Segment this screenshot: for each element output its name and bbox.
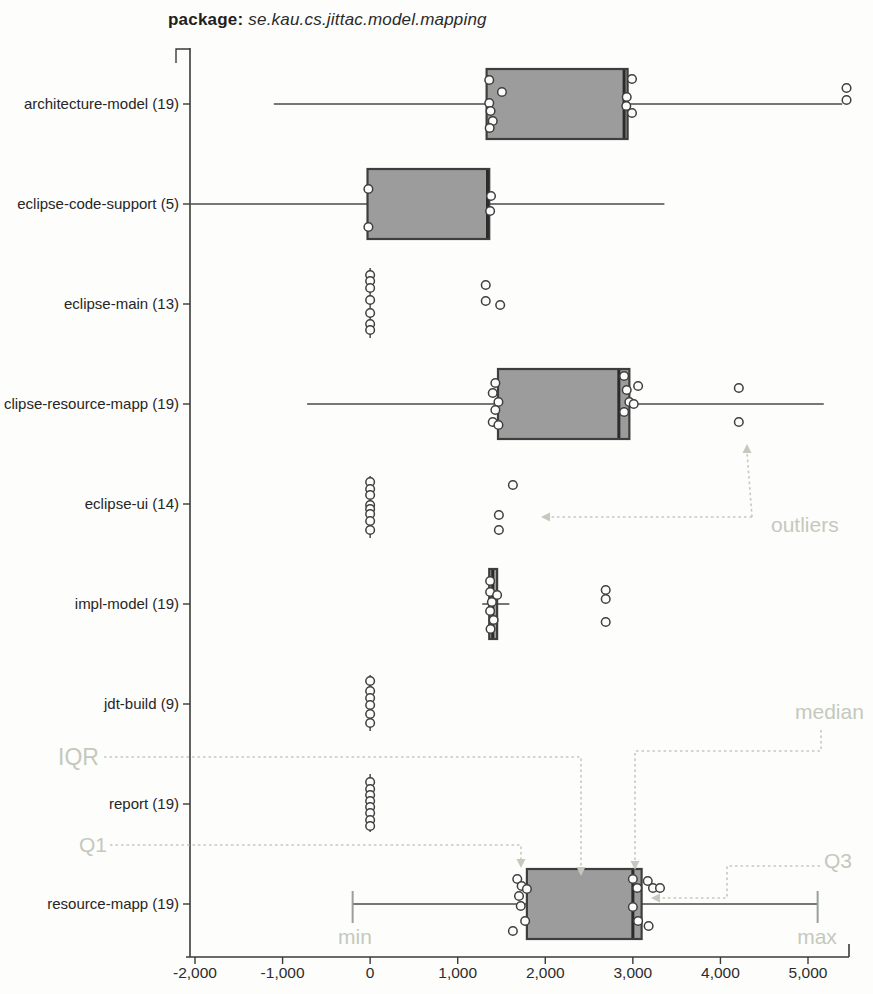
annotation-arrowhead <box>517 859 526 868</box>
annotation-label-min: min <box>338 925 372 948</box>
data-point <box>366 296 375 305</box>
data-point <box>486 207 495 216</box>
y-axis-top-cap <box>176 49 190 63</box>
outlier-point <box>842 84 851 93</box>
data-point <box>364 223 373 232</box>
x-axis-tick-label: 5,000 <box>789 964 828 981</box>
category-label: resource-mapp (19) <box>47 895 179 912</box>
data-point <box>523 885 532 894</box>
annotation-label-q3: Q3 <box>824 849 852 872</box>
data-point <box>620 408 629 417</box>
data-point <box>366 677 375 686</box>
annotation-arrow-median-down <box>635 730 821 862</box>
annotation-arrow-q3-left <box>659 866 820 898</box>
data-point <box>488 598 497 607</box>
outlier-point <box>634 382 643 391</box>
data-point <box>485 76 494 85</box>
data-point <box>489 616 498 625</box>
data-point <box>629 400 638 409</box>
data-point <box>366 710 375 719</box>
chart-title-package-name: se.kau.cs.jittac.model.mapping <box>248 10 486 29</box>
outlier-point <box>495 511 504 520</box>
boxplot-chart: -2,000-1,00001,0002,0003,0004,0005,000ar… <box>0 0 873 994</box>
category-label: report (19) <box>109 795 179 812</box>
outlier-point <box>496 301 505 310</box>
category-label: eclipse-main (13) <box>64 295 179 312</box>
data-point <box>366 309 375 318</box>
data-point <box>366 719 375 728</box>
data-point <box>634 917 643 926</box>
data-point <box>644 922 653 931</box>
outlier-point <box>842 96 851 105</box>
data-point <box>366 526 375 535</box>
annotation-label-max: max <box>797 925 837 948</box>
data-point <box>628 75 637 84</box>
data-point <box>622 386 631 395</box>
outlier-point <box>601 618 610 627</box>
outlier-point <box>735 384 744 393</box>
boxplot-page: package:se.kau.cs.jittac.model.mapping -… <box>0 0 873 994</box>
annotation-label-outliers: outliers <box>771 513 839 536</box>
x-axis-tick-label: -2,000 <box>173 964 217 981</box>
data-point <box>485 124 494 133</box>
chart-title-prefix: package: <box>168 10 243 29</box>
x-axis-tick-label: 3,000 <box>613 964 652 981</box>
data-point <box>366 326 375 335</box>
annotation-arrow-iqr-down <box>104 757 581 868</box>
category-label: architecture-model (19) <box>24 95 179 112</box>
data-point <box>486 577 495 586</box>
outlier-point <box>509 927 518 936</box>
data-point <box>366 517 375 526</box>
x-axis-tick-label: 1,000 <box>438 964 477 981</box>
x-axis-tick-label: 2,000 <box>526 964 565 981</box>
data-point <box>366 491 375 500</box>
data-point <box>628 109 637 118</box>
annotation-arrowhead <box>651 894 660 903</box>
data-point <box>487 192 496 201</box>
chart-title: package:se.kau.cs.jittac.model.mapping <box>168 10 487 30</box>
data-point <box>633 884 642 893</box>
data-point <box>491 379 500 388</box>
annotation-arrowhead <box>541 513 550 522</box>
category-label: impl-model (19) <box>75 595 179 612</box>
data-point <box>486 107 495 116</box>
x-axis-tick-label: -1,000 <box>261 964 305 981</box>
iqr-box <box>368 169 490 239</box>
annotation-label-q1: Q1 <box>79 833 107 856</box>
outlier-point <box>481 281 490 290</box>
data-point <box>498 88 507 97</box>
outlier-point <box>481 297 490 306</box>
annotation-arrow-outliers-up <box>747 452 752 517</box>
data-point <box>486 625 495 634</box>
outlier-point <box>601 586 610 595</box>
iqr-box <box>527 869 642 939</box>
outlier-point <box>495 526 504 535</box>
data-point <box>620 372 629 381</box>
data-point <box>366 284 375 293</box>
iqr-box <box>487 69 628 139</box>
iqr-box <box>498 369 629 439</box>
category-label: clipse-resource-mapp (19) <box>4 395 179 412</box>
data-point <box>366 822 375 831</box>
annotation-label-median: median <box>795 700 864 723</box>
outlier-point <box>735 418 744 427</box>
data-point <box>516 902 525 911</box>
data-point <box>485 99 494 108</box>
data-point <box>488 389 497 398</box>
x-axis-tick-label: 0 <box>366 964 375 981</box>
data-point <box>366 701 375 710</box>
annotation-label-iqr: IQR <box>58 744 99 770</box>
data-point <box>629 875 638 884</box>
data-point <box>656 884 665 893</box>
annotation-arrow-q1-down <box>110 845 521 860</box>
data-point <box>521 917 530 926</box>
outlier-point <box>509 481 518 490</box>
category-label: eclipse-ui (14) <box>85 495 179 512</box>
data-point <box>486 607 495 616</box>
x-axis-tick-label: 4,000 <box>701 964 740 981</box>
annotation-arrowhead <box>743 444 752 453</box>
data-point <box>494 421 503 430</box>
outlier-point <box>601 595 610 604</box>
data-point <box>515 892 524 901</box>
category-label: jdt-build (9) <box>103 695 179 712</box>
